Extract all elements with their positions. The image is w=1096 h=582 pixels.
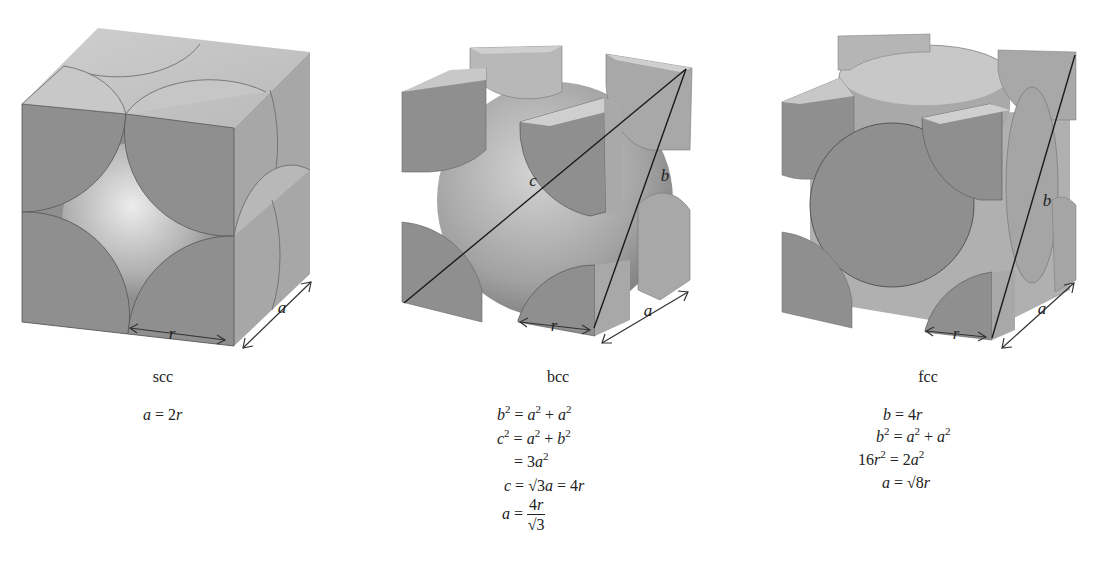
bcc-caption: bcc (498, 368, 618, 386)
scc-caption: scc (103, 368, 223, 386)
fcc-equation-4: a = √8r (882, 473, 930, 493)
a-label: a (644, 301, 653, 320)
bcc-panel: c b r a bcc b2 = a2 + a2 c2 = a2 + b2 = … (390, 0, 720, 582)
r-label: r (551, 316, 558, 335)
fcc-unit-cell-illustration: b r a (770, 0, 1096, 360)
fcc-caption: fcc (868, 368, 988, 386)
a-label: a (1038, 299, 1047, 318)
bcc-equation-5: a = 4r√3 (502, 496, 545, 535)
r-label: r (169, 324, 176, 343)
scc-panel: r a scc a = 2r (0, 0, 330, 582)
scc-equation-1: a = 2r (143, 405, 182, 425)
bcc-equation-3: = 3a2 (514, 452, 549, 472)
bcc-equation-4: c = √3a = 4r (504, 476, 584, 496)
b-label: b (1043, 191, 1052, 210)
bcc-equation-2: c2 = a2 + b2 (497, 429, 571, 449)
fcc-equation-1: b = 4r (883, 405, 922, 425)
fcc-equation-3: 16r2 = 2a2 (858, 450, 924, 470)
a-label: a (278, 298, 287, 317)
r-label: r (953, 324, 960, 343)
right-face-atom (1006, 87, 1058, 283)
scc-unit-cell-illustration: r a (0, 0, 330, 360)
bcc-equation-1: b2 = a2 + a2 (497, 405, 572, 425)
b-label: b (661, 166, 670, 185)
fcc-equation-2: b2 = a2 + a2 (876, 427, 951, 447)
c-label: c (529, 171, 537, 190)
fcc-panel: b r a fcc b = 4r b2 = a2 + a2 16r2 = 2a2… (770, 0, 1096, 582)
bcc-unit-cell-illustration: c b r a (390, 0, 720, 360)
